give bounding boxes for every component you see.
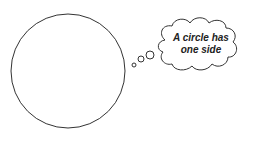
thought-bubble-large <box>146 51 154 59</box>
big-circle <box>11 14 125 128</box>
thought-bubble-medium <box>138 56 144 62</box>
diagram-canvas <box>0 0 255 143</box>
thought-text: A circle has one side <box>162 32 240 56</box>
thought-text-line1: A circle has <box>162 32 240 44</box>
thought-bubble-small <box>132 63 136 67</box>
thought-text-line2: one side <box>162 44 240 56</box>
